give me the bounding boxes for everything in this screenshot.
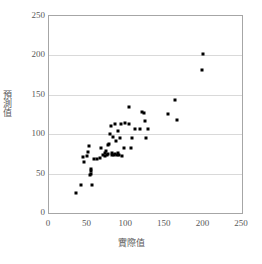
data-point <box>176 119 179 122</box>
data-point <box>122 146 125 149</box>
data-point <box>166 112 169 115</box>
data-point <box>109 124 112 127</box>
data-point <box>129 146 132 149</box>
data-point <box>116 130 119 133</box>
data-point <box>146 128 149 131</box>
gridline-y-200 <box>49 55 242 56</box>
data-point <box>88 145 91 148</box>
data-point <box>87 151 90 154</box>
data-point <box>139 128 142 131</box>
x-tick-label-250: 250 <box>226 218 256 228</box>
data-point <box>142 111 145 114</box>
data-point <box>113 122 116 125</box>
data-point <box>115 139 118 142</box>
data-point <box>81 156 84 159</box>
data-point <box>127 106 130 109</box>
data-point <box>143 119 146 122</box>
data-point <box>119 137 122 140</box>
data-point <box>90 167 93 170</box>
x-tick-label-100: 100 <box>110 218 140 228</box>
y-axis-tick-labels: 050100150200250 <box>0 15 45 214</box>
y-tick-label-100: 100 <box>3 129 45 138</box>
scatter-chart: 預測值 050100150200250 050100150200250 實際值 <box>0 0 262 264</box>
x-tick-label-50: 50 <box>72 218 102 228</box>
x-axis-title: 實際值 <box>0 238 262 248</box>
data-point <box>121 155 124 158</box>
data-point <box>99 146 102 149</box>
plot-area <box>48 15 243 214</box>
data-point <box>85 155 88 158</box>
data-point <box>131 137 134 140</box>
data-point <box>173 98 176 101</box>
data-point <box>80 184 83 187</box>
data-point <box>144 137 147 140</box>
data-point <box>124 122 127 125</box>
data-point <box>119 122 122 125</box>
y-tick-label-150: 150 <box>3 89 45 98</box>
data-point <box>200 68 203 71</box>
x-tick-label-150: 150 <box>149 218 179 228</box>
data-point <box>75 192 78 195</box>
data-point <box>98 156 101 159</box>
x-tick-label-200: 200 <box>187 218 217 228</box>
data-point <box>128 122 131 125</box>
x-tick-label-0: 0 <box>33 218 63 228</box>
data-point <box>108 142 111 145</box>
y-tick-label-0: 0 <box>3 208 45 217</box>
data-point <box>134 127 137 130</box>
y-tick-label-250: 250 <box>3 11 45 20</box>
x-axis-tick-labels: 050100150200250 <box>48 218 243 230</box>
gridline-y-150 <box>49 95 242 96</box>
data-point <box>91 184 94 187</box>
y-tick-label-50: 50 <box>3 168 45 177</box>
data-point <box>202 52 205 55</box>
gridline-y-50 <box>49 174 242 175</box>
gridline-y-100 <box>49 134 242 135</box>
data-point <box>82 160 85 163</box>
y-tick-label-200: 200 <box>3 50 45 59</box>
